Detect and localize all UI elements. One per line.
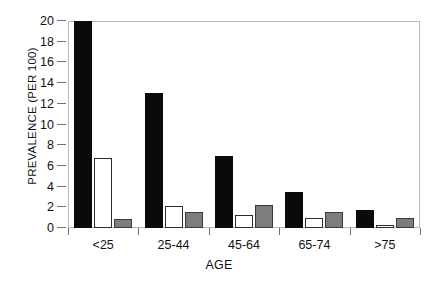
bar bbox=[185, 212, 203, 228]
y-axis-tick: 4 bbox=[0, 180, 68, 194]
x-axis-tick-mark bbox=[209, 228, 210, 235]
x-axis-tick-mark bbox=[138, 228, 139, 235]
x-axis-tick-mark bbox=[68, 228, 69, 235]
y-axis-tick: 16 bbox=[0, 55, 68, 69]
y-axis-tick: 10 bbox=[0, 118, 68, 132]
x-axis-label: 45-64 bbox=[209, 238, 279, 252]
y-axis-tick-label: 14 bbox=[40, 76, 54, 90]
bar bbox=[74, 21, 92, 228]
x-axis-tick-mark bbox=[279, 228, 280, 235]
bar bbox=[235, 215, 253, 228]
bars-layer bbox=[68, 21, 420, 228]
bar bbox=[305, 218, 323, 228]
y-axis-tick: 2 bbox=[0, 200, 68, 214]
y-axis-tick-label: 8 bbox=[47, 138, 54, 152]
bar bbox=[215, 156, 233, 228]
y-axis-tick-mark bbox=[57, 41, 66, 42]
y-axis-tick-mark bbox=[57, 20, 66, 21]
y-axis-tick-label: 12 bbox=[40, 97, 54, 111]
y-axis-tick: 20 bbox=[0, 14, 68, 28]
x-axis-title: AGE bbox=[0, 258, 438, 272]
y-axis-tick-label: 18 bbox=[40, 35, 54, 49]
x-axis-tick-mark bbox=[420, 228, 421, 235]
x-axis-labels: <2525-4445-6465-74>75 bbox=[0, 238, 438, 258]
y-axis-tick-label: 4 bbox=[47, 180, 54, 194]
y-axis-tick-mark bbox=[57, 124, 66, 125]
y-axis-tick-label: 10 bbox=[40, 118, 54, 132]
bar bbox=[325, 212, 343, 228]
y-axis-tick-mark bbox=[57, 186, 66, 187]
y-axis-tick-label: 6 bbox=[47, 159, 54, 173]
x-axis-label: 65-74 bbox=[279, 238, 349, 252]
y-axis-tick-mark bbox=[57, 144, 66, 145]
y-axis-tick: 18 bbox=[0, 35, 68, 49]
y-axis-tick-mark bbox=[57, 61, 66, 62]
y-axis-tick: 8 bbox=[0, 138, 68, 152]
bar bbox=[165, 206, 183, 228]
y-axis-tick-mark bbox=[57, 103, 66, 104]
bar bbox=[145, 93, 163, 228]
y-axis-tick-label: 2 bbox=[47, 200, 54, 214]
bar bbox=[255, 205, 273, 228]
y-axis-tick: 14 bbox=[0, 76, 68, 90]
x-axis-label: >75 bbox=[350, 238, 420, 252]
y-axis-tick-label: 20 bbox=[40, 14, 54, 28]
x-axis-label: <25 bbox=[68, 238, 138, 252]
x-axis-ticks bbox=[0, 228, 438, 238]
bar bbox=[114, 219, 132, 228]
bar bbox=[94, 158, 112, 228]
y-axis-tick-mark bbox=[57, 165, 66, 166]
y-axis-tick-label: 16 bbox=[40, 55, 54, 69]
bar bbox=[396, 218, 414, 228]
bar bbox=[285, 192, 303, 228]
bar-chart: PREVALENCE (PER 100) 02468101214161820 <… bbox=[0, 0, 438, 289]
bar bbox=[356, 210, 374, 228]
x-axis-label: 25-44 bbox=[138, 238, 208, 252]
y-axis-tick: 6 bbox=[0, 159, 68, 173]
y-axis-tick-mark bbox=[57, 82, 66, 83]
y-axis-tick: 12 bbox=[0, 97, 68, 111]
x-axis-tick-mark bbox=[350, 228, 351, 235]
y-axis-tick-mark bbox=[57, 206, 66, 207]
